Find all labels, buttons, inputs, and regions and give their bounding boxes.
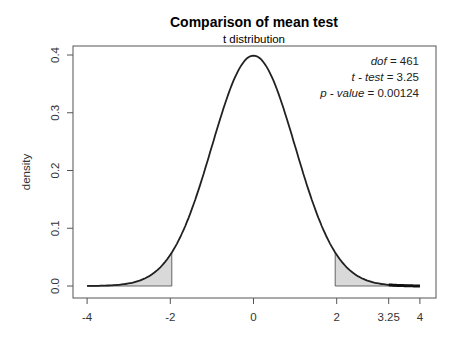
chart-title: Comparison of mean test <box>170 14 338 30</box>
y-axis-label: density <box>20 154 32 191</box>
y-tick-label: 0.3 <box>49 105 61 121</box>
y-axis: 0.00.10.20.30.4 <box>49 46 73 294</box>
x-axis: -4-2023.254 <box>82 298 424 323</box>
y-tick-label: 0.0 <box>49 278 61 294</box>
annotation-p-value: p - value = 0.00124 <box>319 87 419 99</box>
highlighted-tail <box>389 285 420 286</box>
x-tick-label: 3.25 <box>378 311 400 323</box>
x-tick-label: -4 <box>82 311 93 323</box>
x-tick-label: 4 <box>417 311 424 323</box>
annotation-t-test: t - test = 3.25 <box>352 71 419 83</box>
plot-frame <box>73 46 436 298</box>
y-tick-label: 0.1 <box>49 220 61 236</box>
x-tick-label: 0 <box>250 311 256 323</box>
t-distribution-chart: Comparison of mean test t distribution -… <box>0 0 459 341</box>
x-tick-label: 2 <box>333 311 339 323</box>
stats-annotation: dof = 461 t - test = 3.25 p - value = 0.… <box>319 55 419 99</box>
chart-subtitle: t distribution <box>223 33 285 45</box>
y-tick-label: 0.4 <box>49 46 61 63</box>
x-tick-label: -2 <box>165 311 175 323</box>
y-tick-label: 0.2 <box>49 163 61 179</box>
annotation-dof: dof = 461 <box>371 55 419 67</box>
